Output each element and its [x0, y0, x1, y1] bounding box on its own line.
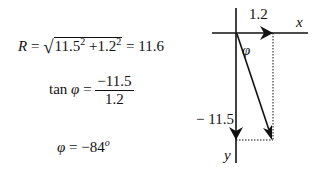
- angle-label: φ: [242, 42, 250, 58]
- x-component-label: 1.2: [249, 6, 268, 22]
- y-axis-label: y: [222, 147, 231, 163]
- y-component-label: − 11.5: [196, 111, 234, 127]
- vector-diagram: 1.2 x φ − 11.5 y: [0, 0, 325, 174]
- x-axis-label: x: [295, 14, 303, 30]
